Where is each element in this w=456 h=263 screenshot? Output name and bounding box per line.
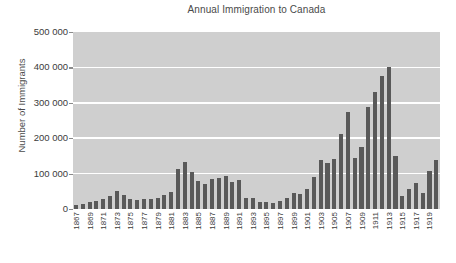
bar — [434, 160, 438, 209]
x-tick-text: 1893 — [248, 212, 257, 230]
bar — [190, 172, 194, 209]
x-tick-blank — [108, 211, 112, 263]
x-tick-text: 1901 — [303, 212, 312, 230]
bar — [380, 76, 384, 209]
bar — [88, 202, 92, 209]
bar — [162, 195, 166, 209]
bar — [325, 163, 329, 209]
x-tick-text: 1899 — [289, 212, 298, 230]
x-tick-label: 1889 — [224, 211, 228, 263]
x-tick-text: 1889 — [221, 212, 230, 230]
bar — [128, 199, 132, 209]
bar — [251, 198, 255, 209]
bar — [332, 159, 336, 209]
x-axis-ticks: 1867186918711873187518771879188118831885… — [73, 211, 440, 263]
bar — [298, 194, 302, 209]
x-tick-text: 1907 — [343, 212, 352, 230]
bar — [183, 162, 187, 209]
x-tick-blank — [176, 211, 180, 263]
bar — [230, 182, 234, 209]
x-tick-text: 1875 — [126, 212, 135, 230]
bar — [203, 184, 207, 209]
bar — [142, 199, 146, 209]
bar — [346, 112, 350, 209]
chart-container: Annual Immigration to Canada Number of I… — [0, 0, 456, 263]
x-tick-label: 1897 — [278, 211, 282, 263]
bar — [156, 198, 160, 209]
x-tick-text: 1903 — [316, 212, 325, 230]
bar — [359, 147, 363, 209]
x-tick-label: 1883 — [183, 211, 187, 263]
bar — [237, 180, 241, 209]
x-tick-text: 1887 — [207, 212, 216, 230]
bar — [292, 193, 296, 209]
x-tick-text: 1917 — [411, 212, 420, 230]
x-tick-label: 1871 — [101, 211, 105, 263]
bar — [305, 189, 309, 209]
bar — [217, 178, 221, 210]
bar — [427, 171, 431, 209]
bar — [264, 202, 268, 209]
x-tick-label: 1885 — [196, 211, 200, 263]
x-tick-text: 1895 — [262, 212, 271, 230]
x-tick-text: 1915 — [398, 212, 407, 230]
x-tick-blank — [380, 211, 384, 263]
bar — [149, 199, 153, 209]
x-tick-blank — [353, 211, 357, 263]
y-tick-label: 500 000 — [0, 26, 68, 37]
x-tick-label: 1873 — [115, 211, 119, 263]
x-tick-blank — [244, 211, 248, 263]
x-tick-label: 1909 — [359, 211, 363, 263]
bar — [393, 156, 397, 209]
x-tick-text: 1879 — [153, 212, 162, 230]
x-tick-blank — [312, 211, 316, 263]
x-tick-label: 1919 — [427, 211, 431, 263]
x-tick-label: 1891 — [237, 211, 241, 263]
bar — [373, 92, 377, 209]
bar — [271, 203, 275, 209]
x-tick-text: 1909 — [357, 212, 366, 230]
bar — [115, 191, 119, 209]
bar — [319, 160, 323, 209]
bar — [122, 195, 126, 209]
bar — [94, 201, 98, 209]
x-tick-label: 1867 — [74, 211, 78, 263]
y-tick-label: 300 000 — [0, 97, 68, 108]
plot-area — [73, 32, 440, 209]
x-tick-text: 1871 — [99, 212, 108, 230]
x-tick-label: 1887 — [210, 211, 214, 263]
bar — [414, 183, 418, 209]
y-tick-label: 200 000 — [0, 132, 68, 143]
bar — [278, 201, 282, 209]
y-tick-label: 100 000 — [0, 168, 68, 179]
x-tick-text: 1919 — [425, 212, 434, 230]
x-tick-blank — [285, 211, 289, 263]
bar — [407, 189, 411, 209]
bar — [339, 134, 343, 209]
x-tick-blank — [217, 211, 221, 263]
x-tick-label: 1905 — [332, 211, 336, 263]
x-tick-text: 1885 — [194, 212, 203, 230]
bar — [74, 205, 78, 209]
x-tick-label: 1911 — [373, 211, 377, 263]
y-tick-mark — [69, 209, 73, 210]
x-tick-text: 1891 — [235, 212, 244, 230]
bar — [108, 196, 112, 209]
x-tick-label: 1907 — [346, 211, 350, 263]
x-tick-text: 1911 — [371, 212, 380, 229]
x-tick-label: 1901 — [305, 211, 309, 263]
bar — [196, 181, 200, 209]
x-tick-text: 1905 — [330, 212, 339, 230]
x-tick-text: 1869 — [85, 212, 94, 230]
bar — [421, 193, 425, 209]
x-tick-label: 1899 — [292, 211, 296, 263]
y-tick-label: 400 000 — [0, 61, 68, 72]
x-tick-blank — [434, 211, 438, 263]
bar — [366, 107, 370, 209]
x-tick-label: 1913 — [387, 211, 391, 263]
bar — [176, 169, 180, 209]
x-tick-blank — [81, 211, 85, 263]
x-tick-label: 1879 — [156, 211, 160, 263]
bar — [244, 198, 248, 209]
bar — [101, 199, 105, 209]
